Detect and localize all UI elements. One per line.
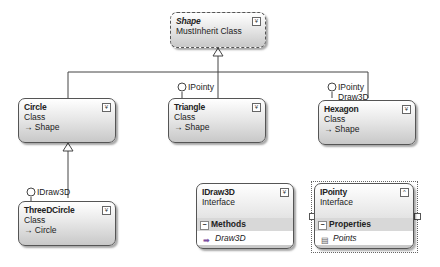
class-triangle[interactable]: Triangle Class → Shape ¥ xyxy=(168,98,266,143)
collapse-section-icon[interactable]: − xyxy=(200,221,209,230)
collapse-toggle-icon[interactable]: ¥ xyxy=(252,103,261,112)
class-base: → Shape xyxy=(24,122,111,132)
class-base: → Circle xyxy=(24,225,111,235)
member-label: Points xyxy=(333,233,357,243)
expand-toggle-icon[interactable]: ^ xyxy=(400,188,409,197)
class-shape[interactable]: Shape MustInherit Class ¥ xyxy=(170,12,266,48)
class-base: → Shape xyxy=(324,124,411,134)
class-name: Shape xyxy=(176,16,261,26)
member-label: Draw3D xyxy=(215,233,246,243)
section-label: Properties xyxy=(329,219,371,229)
class-name: ThreeDCircle xyxy=(24,205,111,215)
class-name: Circle xyxy=(24,102,111,112)
section-methods[interactable]: − Methods xyxy=(197,218,293,231)
lollipop-label: IPointy xyxy=(338,82,364,92)
class-base: → Shape xyxy=(174,122,261,132)
interface-name: IPointy xyxy=(320,187,409,197)
class-circle[interactable]: Circle Class → Shape ¥ xyxy=(18,98,116,143)
class-kind: Class xyxy=(24,112,111,122)
property-icon: ▤ xyxy=(321,234,329,248)
class-kind: Class xyxy=(174,112,261,122)
class-hexagon[interactable]: Hexagon Class → Shape ¥ xyxy=(318,100,416,145)
resize-handle-right[interactable] xyxy=(414,213,421,220)
member-item[interactable]: ➡ Draw3D xyxy=(197,231,293,245)
section-label: Methods xyxy=(211,219,246,229)
class-kind: Class xyxy=(324,114,411,124)
interface-kind: Interface xyxy=(202,197,289,207)
class-name: Triangle xyxy=(174,102,261,112)
lollipop-label: IPointy xyxy=(188,82,214,92)
section-properties[interactable]: − Properties xyxy=(315,218,413,231)
collapse-toggle-icon[interactable]: ¥ xyxy=(102,103,111,112)
collapse-toggle-icon[interactable]: ¥ xyxy=(252,17,261,26)
interface-name: IDraw3D xyxy=(202,187,289,197)
collapse-toggle-icon[interactable]: ¥ xyxy=(102,206,111,215)
interface-idraw3d[interactable]: IDraw3D Interface ¥ − Methods ➡ Draw3D xyxy=(196,183,294,249)
member-item[interactable]: ▤ Points xyxy=(315,231,413,245)
class-name: Hexagon xyxy=(324,104,411,114)
class-kind: Class xyxy=(24,215,111,225)
lollipop-label: IDraw3D xyxy=(37,187,70,197)
collapse-section-icon[interactable]: − xyxy=(318,221,327,230)
class-threedcircle[interactable]: ThreeDCircle Class → Circle ¥ xyxy=(18,201,116,246)
interface-kind: Interface xyxy=(320,197,409,207)
interface-ipointy[interactable]: IPointy Interface ^ − Properties ▤ Point… xyxy=(314,183,414,249)
collapse-toggle-icon[interactable]: ¥ xyxy=(280,188,289,197)
class-kind: MustInherit Class xyxy=(176,26,261,36)
collapse-toggle-icon[interactable]: ¥ xyxy=(402,105,411,114)
method-icon: ➡ xyxy=(203,234,210,248)
